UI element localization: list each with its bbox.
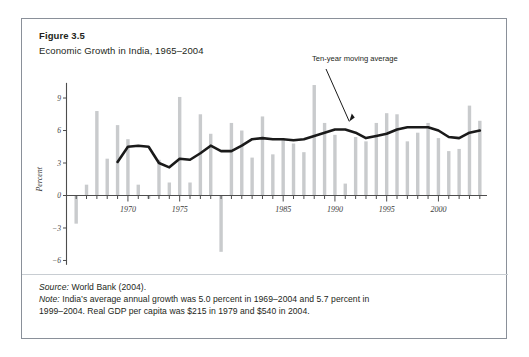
- bar-1985: [281, 138, 284, 195]
- x-axis-ticks: 197019751985199019952000: [76, 196, 480, 214]
- bar-1976: [188, 183, 191, 196]
- bar-1992: [354, 137, 357, 195]
- annotation-arrowhead: [349, 113, 355, 121]
- bar-1998: [416, 133, 419, 196]
- bar-1995: [385, 113, 388, 195]
- bar-1984: [271, 154, 274, 195]
- explanatory-note: Note: India’s average annual growth was …: [39, 293, 491, 305]
- annotation-group: Ten-year moving average: [312, 54, 398, 121]
- bar-1990: [333, 135, 336, 196]
- bar-1999: [426, 123, 429, 196]
- note-text-line-1: India’s average annual growth was 5.0 pe…: [60, 294, 370, 304]
- x-tick-label-1985: 1985: [275, 205, 291, 214]
- bar-1981: [240, 131, 243, 196]
- annotation-label: Ten-year moving average: [312, 54, 398, 63]
- note-text-line-2: 1999–2004. Real GDP per capita was $215 …: [39, 306, 310, 316]
- explanatory-note-continued: 1999–2004. Real GDP per capita was $215 …: [39, 305, 491, 317]
- bar-1993: [364, 141, 367, 195]
- source-keyword: Source:: [39, 282, 69, 292]
- bar-2003: [468, 106, 471, 196]
- y-tick-label-0: 0: [57, 191, 61, 200]
- x-tick-label-1975: 1975: [172, 205, 188, 214]
- source-note: Source: World Bank (2004).: [39, 281, 491, 293]
- bar-1988: [313, 85, 316, 195]
- source-text: World Bank (2004).: [69, 282, 146, 292]
- x-tick-label-1970: 1970: [120, 205, 136, 214]
- bar-1991: [344, 184, 347, 196]
- bar-2000: [437, 138, 440, 195]
- moving-average-line: [118, 127, 480, 167]
- bar-1978: [209, 134, 212, 196]
- y-tick-label-6: 6: [57, 126, 61, 135]
- y-axis-title: Percent: [35, 166, 44, 192]
- y-tick-label-9: 9: [57, 94, 61, 103]
- footer-divider: [22, 274, 508, 275]
- y-tick-label--3: −3: [52, 224, 61, 233]
- note-keyword: Note:: [39, 294, 60, 304]
- x-tick-label-1995: 1995: [379, 205, 395, 214]
- bar-1982: [250, 158, 253, 196]
- bar-1967: [95, 111, 98, 195]
- bar-1980: [230, 123, 233, 196]
- bar-1986: [292, 144, 295, 196]
- bar-2001: [447, 151, 450, 195]
- bar-1965: [74, 196, 77, 224]
- bar-1994: [375, 123, 378, 196]
- bar-1983: [261, 116, 264, 195]
- bar-1997: [406, 141, 409, 195]
- y-axis-ticks: 9630−3−6: [52, 94, 66, 265]
- x-tick-label-1990: 1990: [327, 205, 343, 214]
- bar-1968: [106, 159, 109, 196]
- y-tick-label--6: −6: [52, 256, 61, 265]
- bar-2002: [457, 149, 460, 196]
- y-tick-label-3: 3: [56, 159, 61, 168]
- bar-1975: [178, 97, 181, 196]
- x-tick-label-2000: 2000: [430, 205, 446, 214]
- bar-1971: [137, 185, 140, 196]
- figure-panel: Figure 3.5 Economic Growth in India, 196…: [21, 18, 507, 339]
- bar-1987: [302, 152, 305, 195]
- bar-1996: [395, 114, 398, 195]
- bar-1974: [168, 183, 171, 196]
- figure-footnotes: Source: World Bank (2004). Note: India’s…: [39, 281, 491, 318]
- bar-group: [74, 85, 481, 252]
- bar-1973: [157, 160, 160, 196]
- bar-1979: [219, 196, 222, 252]
- annotation-leader-line: [326, 69, 349, 121]
- bar-1966: [85, 185, 88, 196]
